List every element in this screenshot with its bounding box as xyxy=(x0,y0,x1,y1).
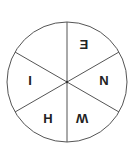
letter-wheel xyxy=(0,0,134,156)
label-top-right: E xyxy=(76,38,92,51)
label-right: N xyxy=(96,74,112,87)
center-dot xyxy=(66,81,68,83)
label-bottom-right: W xyxy=(74,112,90,125)
label-left: I xyxy=(22,74,38,87)
label-bottom-left: H xyxy=(40,112,56,125)
